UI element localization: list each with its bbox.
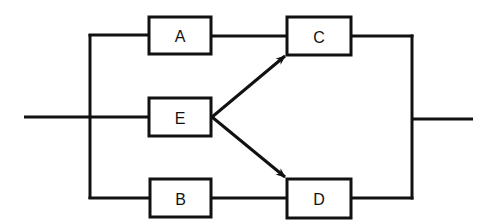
reliability-block-diagram: A E B C D [0, 0, 489, 221]
arrow-e-to-c [212, 56, 285, 117]
block-c-label: C [313, 29, 325, 46]
block-b: B [150, 179, 211, 217]
arrow-e-to-d [212, 117, 285, 177]
block-a-label: A [175, 28, 186, 45]
block-a: A [149, 17, 211, 54]
block-c: C [287, 17, 351, 55]
block-e-label: E [175, 110, 186, 127]
block-d: D [287, 179, 351, 218]
block-e: E [149, 98, 211, 136]
block-b-label: B [175, 191, 186, 208]
block-d-label: D [313, 191, 325, 208]
